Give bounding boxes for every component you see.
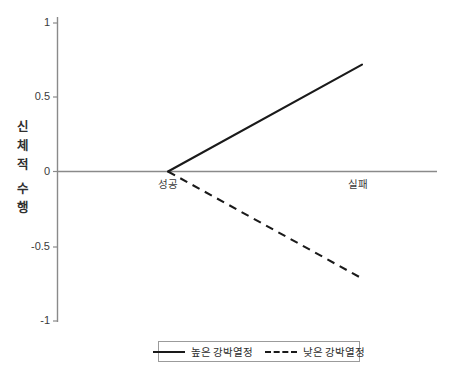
y-axis-title-word-2: 수 행 [12, 180, 34, 218]
legend-label-low-obsessive-passion: 낮은 강박열정 [303, 346, 366, 358]
x-category-label-failure: 실패 [328, 178, 388, 190]
legend-solid-line-icon [153, 347, 185, 357]
legend-entry-low-obsessive-passion: 낮은 강박열정 [265, 346, 366, 358]
legend-entry-high-obsessive-passion: 높은 강박열정 [153, 346, 254, 358]
y-tick-label-0-5: 0.5 [18, 91, 50, 102]
chart-plot-area [0, 0, 468, 377]
y-axis-title-word-1: 신 체 적 [12, 118, 34, 175]
y-tick-label-neg-0-5: -0.5 [12, 241, 50, 252]
y-tick-label-1: 1 [24, 17, 50, 28]
y-axis-title-char-2: 체 [12, 137, 34, 156]
legend-label-high-obsessive-passion: 높은 강박열정 [191, 346, 254, 358]
legend-dashed-line-icon [265, 347, 297, 357]
series-line-high-obsessive-passion [168, 65, 362, 172]
y-axis-title-char-3: 적 [12, 156, 34, 175]
chart-container: 1 0.5 0 -0.5 -1 신 체 적 수 행 성공 실패 높은 강박열정 … [0, 0, 468, 377]
y-axis-title-char-5: 행 [12, 199, 34, 218]
chart-legend: 높은 강박열정 낮은 강박열정 [158, 341, 360, 362]
y-tick-label-neg-1: -1 [18, 315, 50, 326]
y-axis-title-char-1: 신 [12, 118, 34, 137]
y-axis-title-char-4: 수 [12, 180, 34, 199]
y-axis-title: 신 체 적 수 행 [12, 118, 34, 218]
x-category-label-success: 성공 [138, 178, 198, 190]
